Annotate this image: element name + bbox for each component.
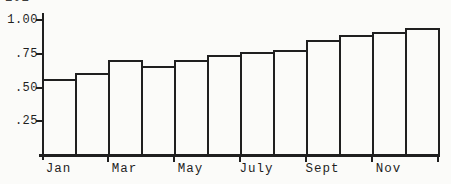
bar-dec — [405, 28, 440, 157]
bar-jul — [240, 52, 275, 157]
x-axis-label-mar: Mar — [112, 163, 138, 176]
x-axis-tick — [437, 154, 439, 162]
y-tick-label-.50: .50 — [4, 82, 38, 94]
bar-may — [174, 60, 209, 157]
bar-apr — [141, 66, 176, 157]
x-axis-tick — [239, 154, 241, 162]
x-axis-tick — [107, 154, 109, 162]
x-axis-label-sept: Sept — [305, 163, 339, 176]
bar-aug — [273, 50, 308, 157]
bar-oct — [339, 35, 374, 157]
y-tick-label-.25: .25 — [4, 115, 38, 127]
x-axis-label-may: May — [178, 163, 204, 176]
bar-sep — [306, 40, 341, 157]
x-axis-label-july: July — [239, 163, 273, 176]
x-axis-tick — [173, 154, 175, 162]
x-axis-tick — [371, 154, 373, 162]
x-axis-tick — [305, 154, 307, 162]
scanned-bar-chart-page: 101 1.00.75.50.25JanMarMayJulySeptNov — [0, 0, 451, 184]
x-axis-label-nov: Nov — [376, 163, 402, 176]
bar-mar — [108, 60, 143, 157]
y-tick-label-.75: .75 — [4, 48, 38, 60]
x-axis-label-jan: Jan — [46, 163, 72, 176]
y-tick-label-1.00: 1.00 — [4, 14, 38, 26]
bar-feb — [75, 73, 110, 157]
chart: 1.00.75.50.25JanMarMayJulySeptNov — [0, 0, 451, 184]
bar-jan — [42, 79, 77, 157]
bar-jun — [207, 55, 242, 157]
bar-nov — [372, 32, 407, 157]
